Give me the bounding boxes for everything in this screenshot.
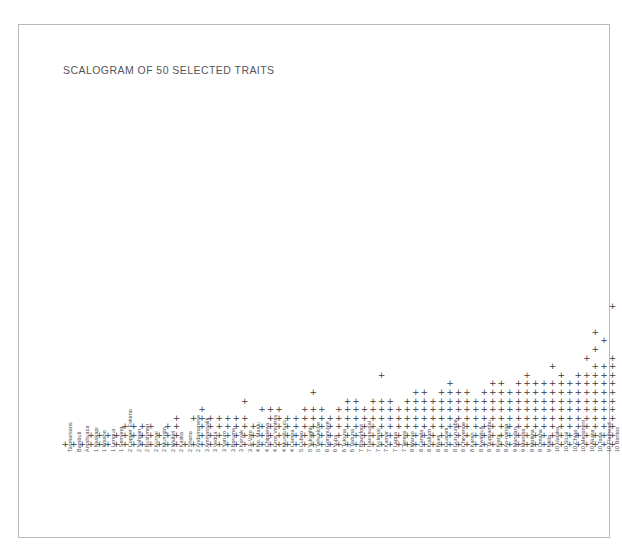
x-axis-label: 7 Kutenai bbox=[375, 428, 381, 452]
x-axis-label: 8 Karen bbox=[469, 432, 475, 452]
x-axis-label: 9 Omaha bbox=[537, 429, 543, 452]
x-axis-label: 7 Havasupai bbox=[366, 421, 372, 452]
x-axis-label: 6 Tukuna bbox=[341, 429, 347, 452]
x-axis-label: 9 Marobo bbox=[520, 428, 526, 452]
x-axis-label: 1 Washo bbox=[101, 430, 107, 452]
x-axis-label: 9 Tiupnambu bbox=[486, 420, 492, 452]
x-axis-label: 4 Campa bbox=[289, 429, 295, 452]
x-axis-label: 8 Cheyenne bbox=[460, 422, 466, 452]
x-axis-label: 2 Kaska bbox=[178, 432, 184, 452]
x-axis-label: 9 Kiara bbox=[495, 434, 501, 452]
x-axis-label: 3 Koryak bbox=[238, 430, 244, 452]
x-axis-label: 2 Kurnai bbox=[153, 431, 159, 452]
x-axis-label: 1 Naskapi bbox=[93, 427, 99, 452]
x-axis-label: 4 No. Maidu bbox=[255, 422, 261, 452]
x-axis-label: 2 Andamanese bbox=[195, 415, 201, 452]
x-axis-label: 7 Tereno bbox=[401, 430, 407, 452]
x-axis-label: 8 Warao bbox=[409, 431, 415, 452]
x-axis-label: 2 Yahgan bbox=[136, 429, 142, 452]
x-axis-label: 10 Numa bbox=[589, 429, 595, 452]
x-axis-label: Bambuti bbox=[76, 432, 82, 452]
x-axis-label: 6 Yupa bbox=[332, 435, 338, 452]
x-axis-label: 5 Yukaghir bbox=[307, 426, 313, 452]
x-axis-label: 2 Copper Eskimo bbox=[127, 409, 133, 452]
x-axis-label: 7 Kamar bbox=[383, 431, 389, 452]
x-axis-label: 2 Walbiri bbox=[170, 430, 176, 452]
x-axis-label: 2 Murngin bbox=[161, 427, 167, 452]
x-axis-label: 10 Halaka bbox=[554, 427, 560, 452]
x-axis-label: 10 Menomini bbox=[580, 420, 586, 452]
x-axis-label: 5 Tehuelche bbox=[315, 422, 321, 452]
x-axis-label: 5 Cubeo bbox=[298, 431, 304, 452]
x-axis-label: 9 Mandan bbox=[512, 427, 518, 452]
x-axis-label: 2 Shono bbox=[187, 431, 193, 452]
x-axis-label: Amahuaca bbox=[84, 425, 90, 452]
scalogram-page: SCALOGRAM OF 50 SELECTED TRAITS ++++++++… bbox=[0, 0, 622, 555]
x-axis-label: 10 Chiga bbox=[572, 430, 578, 452]
x-axis-label: 3 Ammassalik bbox=[204, 418, 210, 452]
x-axis-label: 1 Lengua bbox=[110, 429, 116, 452]
x-axis-label: 3 Yaruro bbox=[221, 431, 227, 452]
x-axis-label: 6 Tiatuna bbox=[349, 429, 355, 452]
x-axis-label: 10 Siuai bbox=[563, 432, 569, 452]
x-axis-label: Tasmanians bbox=[67, 422, 73, 452]
x-axis-label: 10 Bontoc bbox=[614, 427, 620, 452]
x-axis-label: 8 Gururumba bbox=[452, 419, 458, 452]
x-axis-label-group: TasmaniansBambutiAmahuaca1 Naskapi1 Wash… bbox=[0, 0, 622, 555]
x-axis-label: 4 Gros Ventres bbox=[272, 415, 278, 452]
x-axis-label: 8 Nuer bbox=[435, 435, 441, 452]
x-axis-label: 9 Nkila bbox=[546, 435, 552, 452]
x-axis-label: 8 Guarani bbox=[443, 427, 449, 452]
x-axis-label: 3 Ji-Vato bbox=[247, 430, 253, 452]
x-axis-label: 4 Chippewa bbox=[264, 423, 270, 452]
x-axis-label: 2 Bushmen bbox=[144, 424, 150, 452]
x-axis-label: 1 Semang bbox=[118, 427, 124, 452]
x-axis-label: 3 Boruma bbox=[230, 428, 236, 452]
x-axis-label: 10 Toda bbox=[597, 432, 603, 452]
x-axis-label: 6 Goranuine bbox=[324, 421, 330, 452]
x-axis-label: 3 Vedda bbox=[212, 432, 218, 453]
x-axis-label: 7 Blackfoot bbox=[358, 424, 364, 452]
x-axis-label: 7 Lappa bbox=[392, 432, 398, 452]
x-axis-label: 8 Kiallam bbox=[426, 429, 432, 452]
x-axis-label: 10 Flathead bbox=[606, 422, 612, 452]
x-axis-label: 9 Motima bbox=[529, 429, 535, 452]
x-axis-label: 4 Mundurucu bbox=[281, 419, 287, 452]
x-axis-label: 9 Ao-nanga bbox=[503, 423, 509, 452]
x-axis-label: 8 Kwakiutl bbox=[478, 426, 484, 452]
x-axis-label: 8 Canela bbox=[418, 430, 424, 452]
